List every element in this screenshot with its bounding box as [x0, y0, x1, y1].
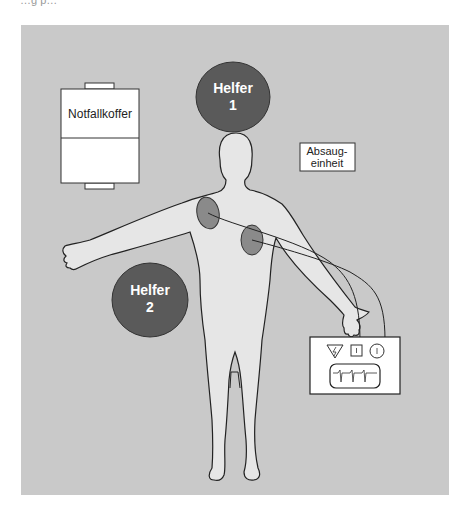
emergency-case-label: Notfallkoffer: [68, 107, 132, 121]
ecg-screen: [330, 364, 380, 388]
helper-2-label-line1: Helfer: [130, 282, 170, 298]
helper-1-label-line1: Helfer: [213, 80, 253, 96]
suction-unit-label-line1: Absaug-: [307, 145, 348, 157]
helper-2-marker: Helfer 2: [112, 263, 188, 337]
helper-1-marker: Helfer 1: [196, 62, 270, 132]
helper-2-label-line2: 2: [146, 299, 154, 315]
helper-1-label-line2: 1: [229, 97, 237, 113]
analyze-button-icon: [351, 345, 362, 356]
power-button-icon: [370, 344, 384, 358]
resuscitation-diagram: Notfallkoffer Helfer 1 Absaug- einheit H…: [0, 0, 467, 518]
suction-unit-label-line2: einheit: [311, 157, 343, 169]
defibrillator-device: [310, 337, 400, 394]
suction-unit: Absaug- einheit: [300, 143, 355, 171]
emergency-case: Notfallkoffer: [61, 83, 139, 189]
